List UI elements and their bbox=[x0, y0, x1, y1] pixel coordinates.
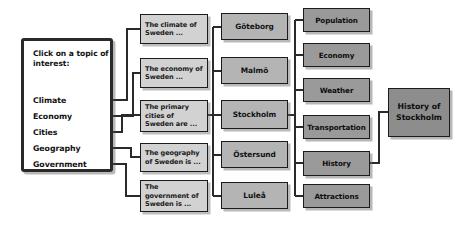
menu-link-government[interactable]: Government bbox=[33, 160, 87, 169]
menu-link-climate[interactable]: Climate bbox=[33, 96, 66, 105]
topic-attractions[interactable]: Attractions bbox=[303, 184, 370, 208]
topic-population[interactable]: Population bbox=[303, 8, 370, 32]
topic-attractions-label: Attractions bbox=[304, 192, 369, 201]
city-goteborg[interactable]: Göteborg bbox=[221, 13, 288, 40]
topic-transportation-label: Transportation bbox=[304, 123, 369, 132]
page-government[interactable]: The government of Sweden is ... bbox=[140, 180, 208, 212]
topic-population-label: Population bbox=[304, 16, 369, 25]
topic-history[interactable]: History bbox=[303, 151, 370, 176]
topic-history-label: History bbox=[304, 159, 369, 168]
topic-menu-panel: Click on a topic of interest: Climate Ec… bbox=[21, 38, 113, 172]
city-stockholm[interactable]: Stockholm bbox=[221, 100, 288, 129]
city-malmo-label: Malmö bbox=[222, 66, 287, 75]
page-cities[interactable]: The primary cities of Sweden are ... bbox=[140, 100, 208, 132]
menu-link-cities[interactable]: Cities bbox=[33, 128, 57, 137]
page-geography-label: The geography of Sweden is ... bbox=[145, 149, 203, 166]
page-climate[interactable]: The climate of Sweden ... bbox=[140, 14, 208, 44]
page-economy[interactable]: The economy of Sweden ... bbox=[140, 58, 208, 88]
menu-prompt: Click on a topic of interest: bbox=[33, 49, 115, 69]
city-lulea[interactable]: Luleå bbox=[221, 182, 288, 209]
topic-weather-label: Weather bbox=[304, 86, 369, 95]
menu-link-geography[interactable]: Geography bbox=[33, 144, 81, 153]
topic-economy-label: Economy bbox=[304, 51, 369, 60]
city-lulea-label: Luleå bbox=[222, 191, 287, 200]
page-geography[interactable]: The geography of Sweden is ... bbox=[140, 143, 208, 172]
topic-weather[interactable]: Weather bbox=[303, 78, 370, 102]
topic-transportation[interactable]: Transportation bbox=[303, 115, 370, 139]
city-malmo[interactable]: Malmö bbox=[221, 57, 288, 84]
menu-link-economy[interactable]: Economy bbox=[33, 112, 72, 121]
link-history-detail bbox=[370, 112, 388, 163]
page-government-label: The government of Sweden is ... bbox=[145, 183, 203, 208]
page-history-of-stockholm[interactable]: History of Stockholm bbox=[388, 88, 450, 137]
page-economy-label: The economy of Sweden ... bbox=[145, 65, 203, 82]
city-ostersund-label: Östersund bbox=[222, 150, 287, 159]
page-climate-label: The climate of Sweden ... bbox=[145, 21, 203, 38]
city-goteborg-label: Göteborg bbox=[222, 22, 287, 31]
navigation-hierarchy-diagram: Click on a topic of interest: Climate Ec… bbox=[0, 0, 473, 226]
topic-economy[interactable]: Economy bbox=[303, 43, 370, 67]
page-cities-label: The primary cities of Sweden are ... bbox=[145, 103, 203, 128]
page-history-of-stockholm-label: History of Stockholm bbox=[389, 102, 449, 123]
city-stockholm-label: Stockholm bbox=[222, 110, 287, 119]
city-ostersund[interactable]: Östersund bbox=[221, 141, 288, 168]
